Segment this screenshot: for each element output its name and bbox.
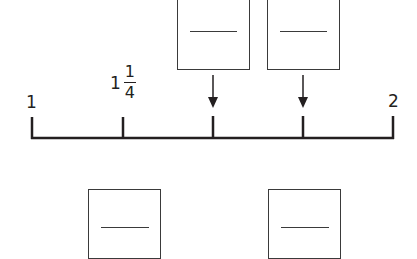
label-end: 2 xyxy=(388,93,399,110)
fraction-bar xyxy=(280,31,327,32)
fraction-bar xyxy=(281,227,329,228)
answer-box-bottom-1[interactable] xyxy=(88,189,161,259)
answer-box-top-1[interactable] xyxy=(177,0,250,70)
fraction-denominator: 4 xyxy=(125,85,135,101)
arrow-down-icon xyxy=(208,75,218,108)
mixed-whole: 1 xyxy=(110,73,121,93)
fraction-numerator: 1 xyxy=(125,64,135,80)
fraction-bar xyxy=(101,227,149,228)
answer-box-top-2[interactable] xyxy=(267,0,340,70)
label-start: 1 xyxy=(26,94,37,111)
fraction-bar xyxy=(190,31,237,32)
mixed-fraction: 1 4 xyxy=(124,64,136,101)
answer-box-bottom-2[interactable] xyxy=(268,189,341,259)
arrow-down-icon xyxy=(298,75,308,108)
label-mixed-number: 1 1 4 xyxy=(110,64,136,101)
